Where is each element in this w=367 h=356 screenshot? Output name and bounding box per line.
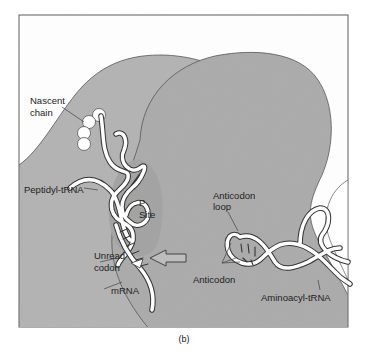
label-p-site: P bbox=[139, 197, 145, 208]
label-nascent-chain-2: chain bbox=[30, 107, 53, 118]
label-nascent-chain: Nascent bbox=[30, 95, 65, 106]
label-p-site-2: Site bbox=[139, 209, 155, 220]
label-mrna: mRNA bbox=[111, 285, 140, 296]
label-peptidyl-trna: Peptidyl-tRNA bbox=[24, 184, 84, 195]
label-unread-codon-2: codon bbox=[94, 262, 120, 273]
figure-caption: (b) bbox=[179, 334, 190, 344]
label-unread-codon: Unread bbox=[94, 250, 125, 261]
label-anticodon-loop: Anticodon bbox=[213, 190, 255, 201]
label-anticodon: Anticodon bbox=[193, 274, 235, 285]
ribosome-translation-diagram: Nascent chain Peptidyl-tRNA P Site Unrea… bbox=[0, 0, 367, 356]
label-aminoacyl-trna: Aminoacyl-tRNA bbox=[261, 292, 331, 303]
label-anticodon-loop-2: loop bbox=[213, 201, 231, 212]
